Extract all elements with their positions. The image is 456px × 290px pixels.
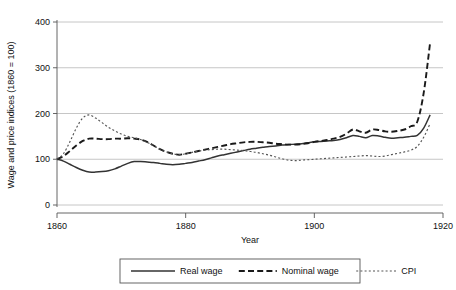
y-tick-label-300: 300 <box>35 63 50 73</box>
wage-price-index-line-chart: 0100200300400 1860188019001920 Wage and … <box>0 0 456 290</box>
y-tick-label-200: 200 <box>35 109 50 119</box>
y-tick-label-400: 400 <box>35 17 50 27</box>
legend-label-real-wage: Real wage <box>180 266 223 276</box>
legend-label-cpi: CPI <box>401 266 416 276</box>
x-tick-label-1920: 1920 <box>433 221 453 231</box>
legend-label-nominal-wage: Nominal wage <box>282 266 339 276</box>
y-tick-label-100: 100 <box>35 154 50 164</box>
x-tick-label-1900: 1900 <box>304 221 324 231</box>
y-tick-label-0: 0 <box>45 200 50 210</box>
y-axis-title: Wage and price indices (1860 = 100) <box>6 41 16 188</box>
x-tick-label-1860: 1860 <box>47 221 67 231</box>
chart-figure: 0100200300400 1860188019001920 Wage and … <box>0 0 456 290</box>
x-axis-title: Year <box>241 235 259 245</box>
x-tick-label-1880: 1880 <box>176 221 196 231</box>
